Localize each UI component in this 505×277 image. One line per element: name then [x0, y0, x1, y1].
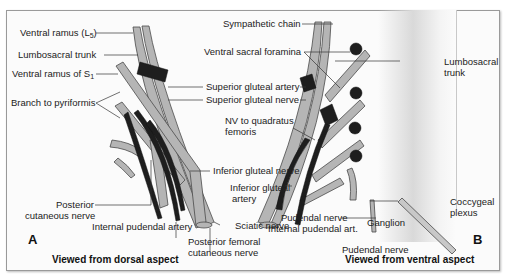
label-posterior-cutaneous-2: cutaneous nerve [25, 210, 95, 221]
label-superior-gluteal-artery: Superior gluteal artery [206, 81, 299, 92]
label-ventral-ramus-l5: Ventral ramus (L5) [20, 27, 97, 41]
label-branch-to-pyriformis: Branch to pyriformis [11, 97, 95, 108]
label-sympathetic-chain: Sympathetic chain [223, 18, 301, 29]
label-lumbosacral-trunk-a: Lumbosacral trunk [18, 49, 96, 60]
label-inferior-gluteal-artery-2: artery [232, 193, 256, 204]
label-inferior-gluteal-nerve: Inferior gluteal nerve [213, 165, 300, 176]
panel-b-caption: Viewed from ventral aspect [345, 254, 474, 265]
label-inferior-gluteal-artery-1: Inferior gluteal [230, 182, 290, 193]
label-nv-quadratus-2: femoris [225, 126, 256, 137]
label-internal-pudendal-art: Internal pudendal art. [268, 223, 358, 234]
label-posterior-femoral-2: cutaneous nerve [188, 247, 258, 258]
label-pudendal-nerve-1: Pudendal nerve [281, 212, 348, 223]
label-coccygeal-plexus-1: Coccygeal [450, 196, 494, 207]
label-ventral-sacral-foramina: Ventral sacral foramina [204, 46, 301, 57]
label-ganglion: Ganglion [367, 217, 405, 228]
label-nv-quadratus-1: NV to quadratus [225, 115, 294, 126]
label-posterior-cutaneous-1: Posterior [56, 199, 94, 210]
panel-a-letter: A [28, 232, 37, 247]
label-lumbosacral-trunk-b-2: trunk [444, 67, 465, 78]
label-internal-pudendal-artery: Internal pudendal artery [92, 221, 192, 232]
panel-a-caption: Viewed from dorsal aspect [52, 254, 179, 265]
label-posterior-femoral-1: Posterior femoral [188, 236, 260, 247]
label-coccygeal-plexus-2: plexus [450, 207, 477, 218]
label-ventral-ramus-s1: Ventral ramus of S1 [12, 68, 94, 82]
label-lumbosacral-trunk-b-1: Lumbosacral [444, 56, 498, 67]
panel-b-letter: B [473, 232, 482, 247]
label-superior-gluteal-nerve: Superior gluteal nerve [206, 94, 299, 105]
